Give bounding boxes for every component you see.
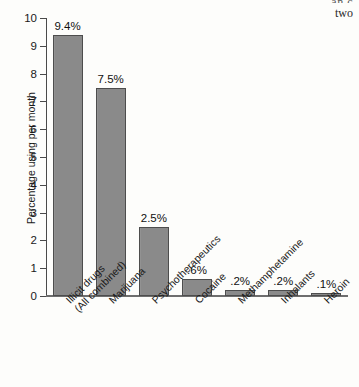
y-tick-label: 1 [31, 262, 37, 274]
y-tick-label: 5 [31, 151, 37, 163]
bar-chart: Percentage using per month 012345678910 … [0, 0, 359, 387]
bar-value-label: 7.5% [98, 73, 124, 85]
bar-slot: 2.5% [132, 18, 175, 296]
y-tick-label: 10 [24, 12, 37, 24]
y-tick-label: 2 [31, 234, 37, 246]
bar-value-label: 9.4% [54, 20, 80, 32]
bar[interactable] [53, 35, 83, 296]
scanned-page: an c two Percentage using per month 0123… [0, 0, 359, 387]
y-tick-label: 4 [31, 179, 37, 191]
y-tick-label: 0 [31, 290, 37, 302]
y-tick-label: 8 [31, 68, 37, 80]
bar-slot: 9.4% [46, 18, 89, 296]
bar-slot: .1% [305, 18, 348, 296]
bar-slot: .2% [219, 18, 262, 296]
y-tick-mark [40, 296, 46, 297]
x-axis-labels: Illicit drugs (All combined)MarijuanaPsy… [46, 298, 348, 387]
y-tick-label: 9 [31, 40, 37, 52]
y-tick-label: 3 [31, 207, 37, 219]
bar-value-label: 2.5% [141, 212, 167, 224]
y-tick-label: 7 [31, 95, 37, 107]
y-tick-label: 6 [31, 123, 37, 135]
